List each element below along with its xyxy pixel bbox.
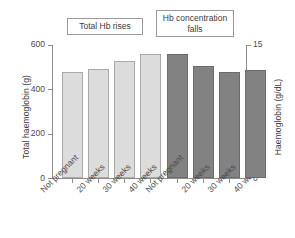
x-axis-tick-5: [177, 179, 178, 183]
y-axis-left-label-200: 200: [31, 129, 45, 138]
x-axis-tick-2: [98, 179, 99, 183]
y-axis-left-tick-200: [48, 134, 52, 135]
y-axis-right-title: Haemoglobin (g/dL): [273, 47, 283, 187]
annotation-hb-concentration-falls: Hb concentration falls: [156, 10, 234, 37]
y-axis-left-title: Total haemoglobin (g): [21, 47, 31, 187]
y-axis-right-label-15: 15: [253, 40, 262, 49]
annotation-line-1: Hb concentration: [161, 13, 229, 24]
y-axis-left-tick-600: [48, 45, 52, 46]
bar-total-hb-30-weeks: [114, 61, 135, 178]
chart-figure: Total haemoglobin (g) Haemoglobin (g/dL)…: [0, 0, 295, 238]
x-axis-tick-7: [229, 179, 230, 183]
y-axis-left-tick-400: [48, 89, 52, 90]
x-axis-tick-1: [72, 179, 73, 183]
annotation-total-hb-rises: Total Hb rises: [67, 18, 143, 35]
annotation-line-2: falls: [161, 24, 229, 35]
y-axis-right-tick-15: [247, 45, 251, 46]
bar-total-hb-40-weeks: [140, 54, 161, 178]
y-axis-left-line: [52, 45, 53, 179]
x-axis-tick-6: [203, 179, 204, 183]
y-axis-left-label-600: 600: [31, 40, 45, 49]
y-axis-left-label-400: 400: [31, 85, 45, 94]
bar-hb-concentration-40-weeks: [245, 70, 266, 178]
x-axis-tick-3: [124, 179, 125, 183]
